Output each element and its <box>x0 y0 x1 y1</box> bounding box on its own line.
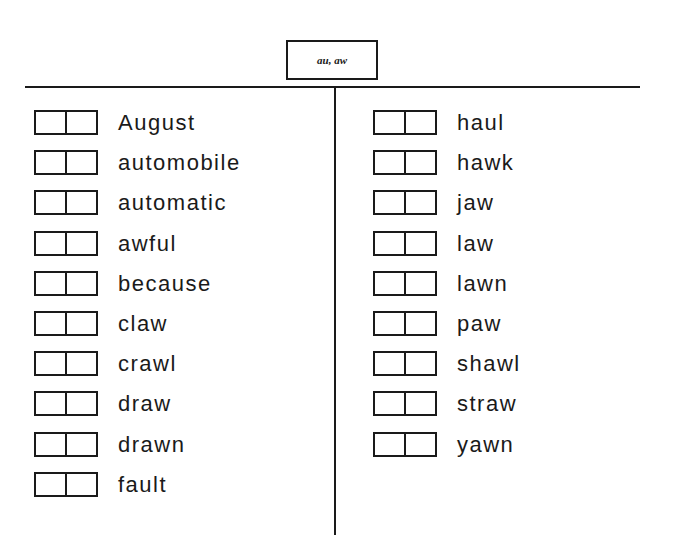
word-label: automobile <box>118 150 241 175</box>
list-item: fault <box>34 472 241 497</box>
list-item: law <box>373 231 521 256</box>
word-label: hawk <box>457 150 514 175</box>
list-item: claw <box>34 311 241 336</box>
answer-cell[interactable] <box>375 112 406 133</box>
answer-cell[interactable] <box>375 152 406 173</box>
answer-cell[interactable] <box>36 313 67 334</box>
list-item: haul <box>373 110 521 135</box>
word-label: fault <box>118 472 167 497</box>
answer-box[interactable] <box>373 432 437 457</box>
answer-cell[interactable] <box>375 353 406 374</box>
answer-cell[interactable] <box>36 393 67 414</box>
answer-box[interactable] <box>34 271 98 296</box>
answer-cell[interactable] <box>375 434 406 455</box>
word-label: crawl <box>118 351 177 376</box>
list-item: automatic <box>34 190 241 215</box>
answer-cell[interactable] <box>375 192 406 213</box>
word-label: awful <box>118 231 177 256</box>
answer-cell[interactable] <box>375 393 406 414</box>
answer-box[interactable] <box>373 351 437 376</box>
list-item: straw <box>373 391 521 416</box>
answer-cell[interactable] <box>36 353 67 374</box>
word-label: jaw <box>457 190 495 215</box>
answer-cell[interactable] <box>406 434 435 455</box>
list-item: automobile <box>34 150 241 175</box>
word-label: lawn <box>457 271 508 296</box>
answer-box[interactable] <box>373 311 437 336</box>
list-item: crawl <box>34 351 241 376</box>
word-label: because <box>118 271 212 296</box>
answer-cell[interactable] <box>406 273 435 294</box>
left-word-column: August automobile automatic awful becaus… <box>34 110 241 512</box>
answer-cell[interactable] <box>406 233 435 254</box>
answer-box[interactable] <box>34 391 98 416</box>
list-item: draw <box>34 391 241 416</box>
answer-box[interactable] <box>373 190 437 215</box>
word-label: yawn <box>457 432 514 457</box>
title-text: au, aw <box>317 54 347 66</box>
list-item: hawk <box>373 150 521 175</box>
word-label: drawn <box>118 432 185 457</box>
word-label: August <box>118 110 196 135</box>
answer-box[interactable] <box>34 231 98 256</box>
list-item: drawn <box>34 432 241 457</box>
answer-cell[interactable] <box>406 152 435 173</box>
horizontal-divider <box>25 86 640 88</box>
answer-cell[interactable] <box>36 273 67 294</box>
list-item: lawn <box>373 271 521 296</box>
word-label: paw <box>457 311 502 336</box>
answer-box[interactable] <box>34 110 98 135</box>
answer-cell[interactable] <box>67 152 96 173</box>
answer-cell[interactable] <box>67 474 96 495</box>
answer-cell[interactable] <box>36 434 67 455</box>
word-label: shawl <box>457 351 521 376</box>
word-label: automatic <box>118 190 227 215</box>
answer-box[interactable] <box>34 472 98 497</box>
answer-box[interactable] <box>34 351 98 376</box>
answer-box[interactable] <box>34 150 98 175</box>
answer-cell[interactable] <box>36 112 67 133</box>
list-item: because <box>34 271 241 296</box>
list-item: yawn <box>373 432 521 457</box>
answer-cell[interactable] <box>406 112 435 133</box>
answer-cell[interactable] <box>36 233 67 254</box>
answer-box[interactable] <box>373 271 437 296</box>
word-label: draw <box>118 391 172 416</box>
list-item: shawl <box>373 351 521 376</box>
answer-cell[interactable] <box>375 313 406 334</box>
answer-cell[interactable] <box>67 112 96 133</box>
answer-box[interactable] <box>373 110 437 135</box>
answer-cell[interactable] <box>375 273 406 294</box>
answer-box[interactable] <box>34 190 98 215</box>
answer-cell[interactable] <box>67 353 96 374</box>
answer-box[interactable] <box>34 311 98 336</box>
answer-cell[interactable] <box>67 393 96 414</box>
list-item: awful <box>34 231 241 256</box>
word-label: haul <box>457 110 505 135</box>
answer-cell[interactable] <box>406 393 435 414</box>
answer-cell[interactable] <box>406 353 435 374</box>
answer-cell[interactable] <box>375 233 406 254</box>
answer-box[interactable] <box>373 231 437 256</box>
answer-cell[interactable] <box>406 313 435 334</box>
list-item: August <box>34 110 241 135</box>
answer-cell[interactable] <box>67 233 96 254</box>
right-word-column: haul hawk jaw law lawn paw shawl straw y… <box>373 110 521 472</box>
answer-box[interactable] <box>373 391 437 416</box>
answer-cell[interactable] <box>67 313 96 334</box>
answer-box[interactable] <box>34 432 98 457</box>
answer-cell[interactable] <box>36 474 67 495</box>
word-label: law <box>457 231 495 256</box>
list-item: paw <box>373 311 521 336</box>
vertical-divider <box>334 87 336 535</box>
answer-box[interactable] <box>373 150 437 175</box>
answer-cell[interactable] <box>67 192 96 213</box>
word-label: straw <box>457 391 517 416</box>
word-label: claw <box>118 311 168 336</box>
list-item: jaw <box>373 190 521 215</box>
answer-cell[interactable] <box>36 192 67 213</box>
answer-cell[interactable] <box>67 273 96 294</box>
answer-cell[interactable] <box>67 434 96 455</box>
answer-cell[interactable] <box>36 152 67 173</box>
answer-cell[interactable] <box>406 192 435 213</box>
